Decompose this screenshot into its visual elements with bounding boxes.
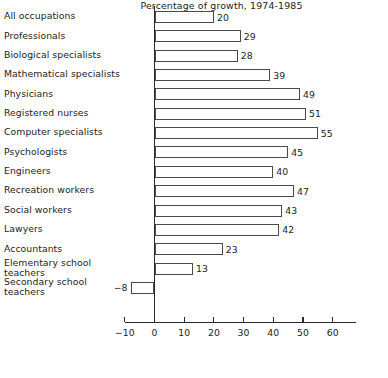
x-axis-line xyxy=(125,322,357,323)
bar-value-label: 23 xyxy=(226,244,238,256)
x-axis-tick xyxy=(332,317,333,322)
bar xyxy=(155,146,289,158)
bar xyxy=(155,69,271,81)
bar xyxy=(155,11,214,23)
bar xyxy=(155,185,295,197)
bar-chart: All occupationsProfessionalsBiological s… xyxy=(0,0,388,378)
bar xyxy=(155,127,318,139)
bar xyxy=(155,243,223,255)
x-axis-caption: Percentage of growth, 1974-1985 xyxy=(0,0,388,11)
bar-value-label: 49 xyxy=(303,89,315,101)
bar-value-label: 28 xyxy=(241,50,253,62)
x-axis-tick xyxy=(273,317,274,322)
bar-value-label: 29 xyxy=(244,31,256,43)
bar-value-label: 55 xyxy=(321,128,333,140)
bar-value-label: −8 xyxy=(114,282,128,294)
x-axis-tick-label: 60 xyxy=(313,328,353,338)
x-axis-caption-text: Percentage of growth, 1974-1985 xyxy=(85,0,302,11)
bar xyxy=(155,205,283,217)
x-axis-tick xyxy=(243,317,244,322)
x-axis-tick xyxy=(213,317,214,322)
bar-value-label: 42 xyxy=(282,224,294,236)
x-axis-tick xyxy=(124,317,125,322)
x-axis-tick xyxy=(302,317,303,322)
bar xyxy=(155,30,241,42)
bar xyxy=(155,88,301,100)
bar-value-label: 39 xyxy=(273,70,285,82)
bar-value-label: 20 xyxy=(217,12,229,24)
plot-area: −100102030405060202928394951554540474342… xyxy=(0,0,388,340)
x-axis-tick xyxy=(154,317,155,322)
bar xyxy=(155,263,194,275)
bar-value-label: 51 xyxy=(309,108,321,120)
bar-value-label: 43 xyxy=(285,205,297,217)
bar-value-label: 13 xyxy=(196,263,208,275)
bar xyxy=(155,50,238,62)
bar-value-label: 47 xyxy=(297,186,309,198)
bar-value-label: 40 xyxy=(276,166,288,178)
bar xyxy=(155,108,306,120)
bar-value-label: 45 xyxy=(291,147,303,159)
bar xyxy=(155,224,280,236)
bar xyxy=(155,166,274,178)
x-axis-tick xyxy=(184,317,185,322)
bar xyxy=(131,282,155,294)
